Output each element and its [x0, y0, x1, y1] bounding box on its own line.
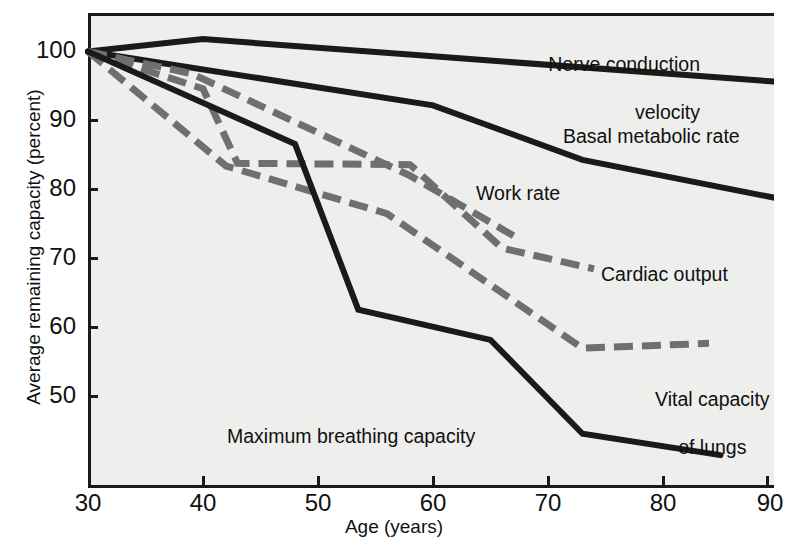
- series-label-cardiac-output: Cardiac output: [601, 262, 728, 286]
- series-label-basal-metabolic-rate: Basal metabolic rate: [563, 124, 740, 148]
- series-label-maximum-breathing-capacity: Maximum breathing capacity: [227, 424, 475, 448]
- nerve-label-line2: velocity: [635, 101, 700, 123]
- nerve-label-line1: Nerve conduction: [548, 53, 700, 75]
- vital-label-line2: of lungs: [678, 436, 746, 458]
- vital-label-line1: Vital capacity: [655, 388, 770, 410]
- series-label-work-rate: Work rate: [476, 181, 560, 205]
- series-label-vital-capacity-of-lungs: Vital capacity of lungs: [629, 363, 774, 483]
